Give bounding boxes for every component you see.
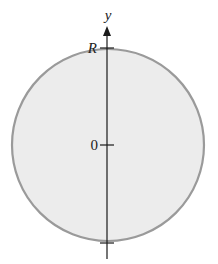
axis-label: y <box>103 7 112 23</box>
disk-diagram: y R 0 <box>0 0 218 264</box>
tick-label-top: R <box>87 40 97 56</box>
arrow-up-icon <box>103 26 111 36</box>
tick-label-center: 0 <box>91 137 99 153</box>
